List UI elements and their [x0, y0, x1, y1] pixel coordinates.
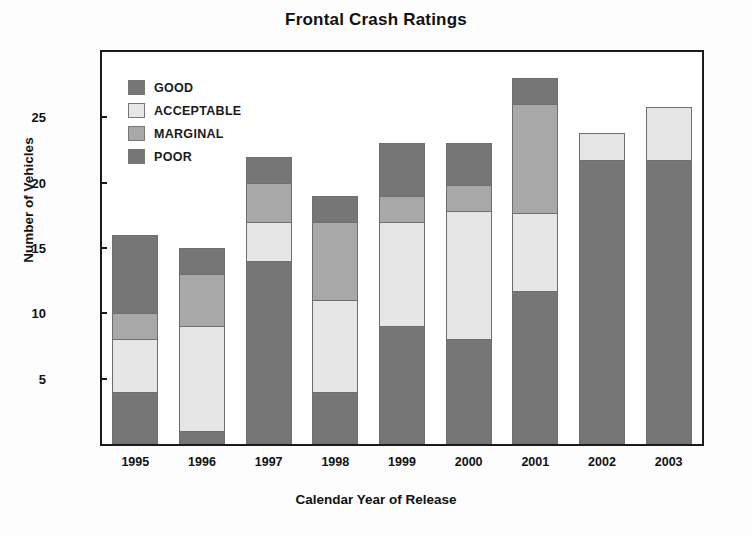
- legend-swatch-marginal-icon: [128, 126, 145, 141]
- legend-item-good[interactable]: GOOD: [128, 76, 242, 99]
- x-tick-label-1996: 1996: [167, 455, 237, 469]
- bar-segment-2000-marginal[interactable]: [446, 185, 492, 211]
- bar-1997[interactable]: [246, 52, 292, 444]
- bar-segment-2001-good[interactable]: [512, 291, 558, 444]
- x-tick-label-1997: 1997: [234, 455, 304, 469]
- bar-2000[interactable]: [446, 52, 492, 444]
- bar-segment-2003-acceptable[interactable]: [646, 107, 692, 161]
- x-tick-label-1995: 1995: [100, 455, 170, 469]
- bar-2001[interactable]: [512, 52, 558, 444]
- bar-segment-1998-poor[interactable]: [312, 196, 358, 222]
- bar-2003[interactable]: [646, 52, 692, 444]
- bar-segment-2001-poor[interactable]: [512, 78, 558, 104]
- bar-segment-1999-good[interactable]: [379, 326, 425, 444]
- x-tick-label-1999: 1999: [367, 455, 437, 469]
- bar-segment-1997-good[interactable]: [246, 261, 292, 444]
- x-tick-label-2001: 2001: [500, 455, 570, 469]
- bar-2002[interactable]: [579, 52, 625, 444]
- bar-segment-2001-acceptable[interactable]: [512, 213, 558, 291]
- bar-segment-1998-good[interactable]: [312, 392, 358, 444]
- bar-segment-1997-poor[interactable]: [246, 157, 292, 183]
- legend-swatch-poor-icon: [128, 149, 145, 164]
- x-tick-label-2003: 2003: [634, 455, 704, 469]
- chart-title: Frontal Crash Ratings: [0, 10, 752, 30]
- bar-segment-1997-marginal[interactable]: [246, 183, 292, 222]
- bar-segment-2002-acceptable[interactable]: [579, 133, 625, 160]
- y-tick-label-15: 15: [6, 241, 46, 256]
- bar-segment-1995-good[interactable]: [112, 392, 158, 444]
- bar-1998[interactable]: [312, 52, 358, 444]
- x-tick-label-2002: 2002: [567, 455, 637, 469]
- y-tick-label-10: 10: [6, 306, 46, 321]
- x-tick-label-2000: 2000: [434, 455, 504, 469]
- bar-segment-1995-marginal[interactable]: [112, 313, 158, 339]
- legend-label: ACCEPTABLE: [154, 104, 242, 118]
- bar-segment-1999-poor[interactable]: [379, 143, 425, 195]
- bar-segment-1998-acceptable[interactable]: [312, 300, 358, 391]
- legend-item-acceptable[interactable]: ACCEPTABLE: [128, 99, 242, 122]
- chart-legend: GOODACCEPTABLEMARGINALPOOR: [128, 76, 242, 168]
- legend-item-poor[interactable]: POOR: [128, 145, 242, 168]
- bar-segment-1996-good[interactable]: [179, 431, 225, 444]
- bar-segment-1995-acceptable[interactable]: [112, 339, 158, 391]
- bar-segment-1999-marginal[interactable]: [379, 196, 425, 222]
- bar-segment-1998-marginal[interactable]: [312, 222, 358, 300]
- bar-segment-1999-acceptable[interactable]: [379, 222, 425, 327]
- x-axis-title: Calendar Year of Release: [0, 492, 752, 507]
- bar-segment-2000-acceptable[interactable]: [446, 211, 492, 339]
- legend-label: POOR: [154, 150, 192, 164]
- bar-segment-1996-acceptable[interactable]: [179, 326, 225, 431]
- legend-label: MARGINAL: [154, 127, 224, 141]
- bar-segment-1996-marginal[interactable]: [179, 274, 225, 326]
- bar-segment-1996-poor[interactable]: [179, 248, 225, 274]
- y-tick-label-25: 25: [6, 110, 46, 125]
- bar-segment-1995-poor[interactable]: [112, 235, 158, 313]
- bar-segment-2003-good[interactable]: [646, 160, 692, 444]
- chart-figure: Frontal Crash Ratings Number of Vehicles…: [0, 0, 752, 536]
- legend-swatch-good-icon: [128, 80, 145, 95]
- y-tick-label-20: 20: [6, 175, 46, 190]
- bar-segment-1997-acceptable[interactable]: [246, 222, 292, 261]
- bar-1999[interactable]: [379, 52, 425, 444]
- bar-segment-2001-marginal[interactable]: [512, 104, 558, 212]
- legend-item-marginal[interactable]: MARGINAL: [128, 122, 242, 145]
- bar-segment-2002-good[interactable]: [579, 160, 625, 444]
- bar-segment-2000-poor[interactable]: [446, 143, 492, 185]
- legend-label: GOOD: [154, 81, 193, 95]
- y-tick-label-5: 5: [6, 371, 46, 386]
- legend-swatch-acceptable-icon: [128, 103, 145, 118]
- x-tick-label-1998: 1998: [300, 455, 370, 469]
- bar-segment-2000-good[interactable]: [446, 339, 492, 444]
